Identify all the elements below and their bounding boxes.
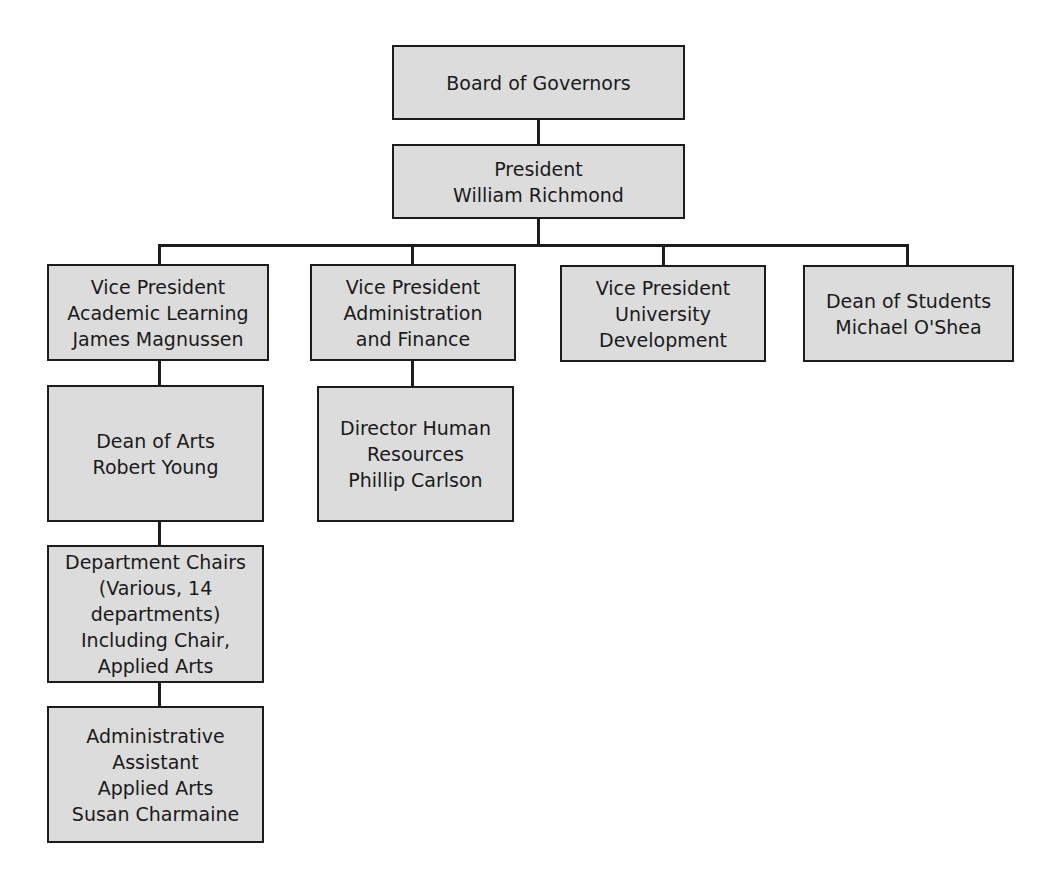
node-line: James Magnussen (72, 326, 243, 352)
node-line: William Richmond (453, 182, 624, 208)
node-line: Vice President (346, 274, 481, 300)
connector-horizontal-bar (158, 244, 909, 247)
node-line: Development (599, 327, 727, 353)
node-board-of-governors: Board of Governors (392, 45, 685, 120)
node-president: President William Richmond (392, 144, 685, 219)
node-line: Vice President (91, 274, 226, 300)
connector-board-president (537, 119, 540, 146)
node-line: Board of Governors (446, 70, 630, 96)
node-dean-of-arts: Dean of Arts Robert Young (47, 385, 264, 522)
node-line: departments) (91, 601, 221, 627)
connector-dean-students (906, 244, 909, 266)
node-line: Vice President (596, 275, 731, 301)
node-administrative-assistant: Administrative Assistant Applied Arts Su… (47, 706, 264, 843)
node-line: Michael O'Shea (835, 314, 981, 340)
node-line: Phillip Carlson (348, 467, 482, 493)
node-line: President (494, 156, 583, 182)
node-line: Dean of Arts (96, 428, 215, 454)
node-line: Dean of Students (826, 288, 991, 314)
node-line: (Various, 14 (99, 575, 213, 601)
node-director-human-resources: Director Human Resources Phillip Carlson (317, 386, 514, 522)
node-dean-of-students: Dean of Students Michael O'Shea (803, 265, 1014, 362)
node-line: Applied Arts (98, 775, 214, 801)
node-line: Director Human (340, 415, 491, 441)
connector-president-down (537, 218, 540, 246)
node-line: Including Chair, (81, 627, 230, 653)
node-line: Assistant (112, 749, 199, 775)
node-line: Administrative (86, 723, 224, 749)
node-line: and Finance (356, 326, 470, 352)
node-line: Resources (367, 441, 464, 467)
connector-vp-academic-dean-arts (158, 360, 161, 387)
connector-vp-admin-director-hr (411, 360, 414, 388)
node-vp-administration-finance: Vice President Administration and Financ… (310, 264, 516, 361)
connector-dean-arts-dept-chairs (158, 521, 161, 547)
node-line: Administration (343, 300, 482, 326)
connector-dept-chairs-admin-assistant (158, 682, 161, 708)
connector-vp-univ-dev (662, 244, 665, 266)
connector-vp-academic (158, 244, 161, 266)
node-vp-university-development: Vice President University Development (560, 265, 766, 362)
node-vp-academic-learning: Vice President Academic Learning James M… (47, 264, 269, 361)
node-line: Susan Charmaine (72, 801, 239, 827)
node-line: Robert Young (93, 454, 219, 480)
node-line: Department Chairs (65, 549, 246, 575)
node-line: Applied Arts (98, 653, 214, 679)
node-line: Academic Learning (67, 300, 248, 326)
node-line: University (615, 301, 711, 327)
node-department-chairs: Department Chairs (Various, 14 departmen… (47, 545, 264, 683)
connector-vp-admin (411, 244, 414, 266)
